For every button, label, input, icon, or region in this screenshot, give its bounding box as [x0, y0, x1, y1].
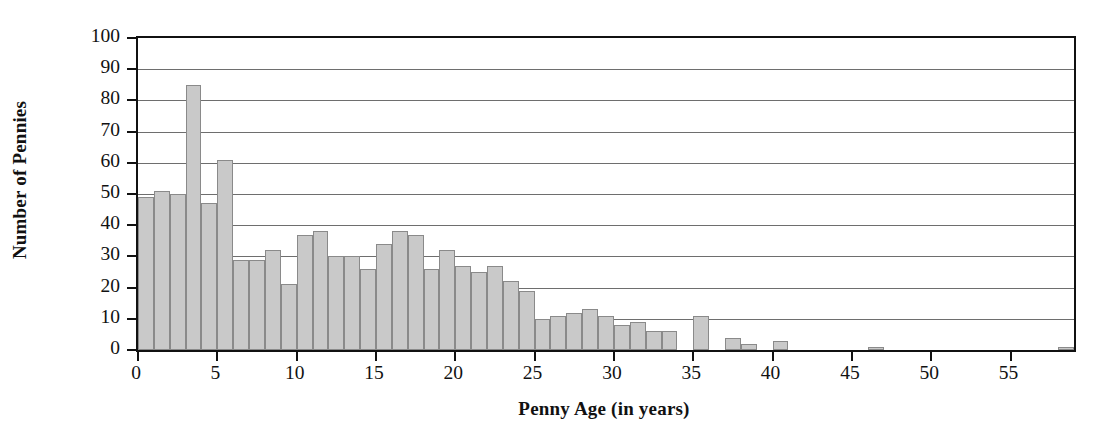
histogram-bar [439, 250, 455, 350]
histogram-bar [535, 319, 551, 350]
x-axis-tick-label: 40 [761, 362, 781, 384]
histogram-bar [313, 231, 329, 350]
histogram-bar [646, 331, 662, 350]
histogram-bar [582, 309, 598, 350]
x-axis-tick [772, 350, 774, 361]
y-axis-tick [127, 162, 138, 164]
histogram-bar [598, 316, 614, 350]
y-axis-tick-label: 80 [10, 87, 130, 109]
histogram-bar [297, 235, 313, 350]
x-axis-tick-labels: 0510152025303540455055 [136, 362, 1072, 392]
y-axis-tick-label: 90 [10, 56, 130, 78]
histogram-bar [138, 197, 154, 350]
y-axis-tick [127, 193, 138, 195]
histogram-bar [233, 260, 249, 350]
histogram-bar [154, 191, 170, 350]
y-axis-tick [127, 99, 138, 101]
x-axis-tick-label: 5 [210, 362, 220, 384]
histogram-bar [1058, 347, 1074, 350]
x-axis-tick [613, 350, 615, 361]
histogram-bar [376, 244, 392, 350]
y-axis-tick [127, 287, 138, 289]
gridline-y-80 [138, 100, 1074, 101]
gridline-y-90 [138, 69, 1074, 70]
y-axis-tick [127, 224, 138, 226]
y-axis-tick-label: 0 [10, 337, 130, 359]
histogram-bar [328, 256, 344, 350]
x-axis-tick [296, 350, 298, 361]
histogram-bar [217, 160, 233, 350]
x-axis-tick-label: 45 [840, 362, 860, 384]
histogram-bar [281, 284, 297, 350]
x-axis-tick [216, 350, 218, 361]
histogram-bar [201, 203, 217, 350]
y-axis-tick-label: 30 [10, 243, 130, 265]
x-axis-tick-label: 0 [131, 362, 141, 384]
histogram-bar [455, 266, 471, 350]
x-axis-tick [1010, 350, 1012, 361]
y-axis-tick-label: 10 [10, 306, 130, 328]
x-axis-tick-label: 55 [999, 362, 1019, 384]
histogram-bar [566, 313, 582, 350]
gridline-y-50 [138, 194, 1074, 195]
y-axis-tick [127, 318, 138, 320]
x-axis-tick [930, 350, 932, 361]
y-axis-tick-label: 100 [10, 25, 130, 47]
histogram-bar [249, 260, 265, 350]
histogram-bar [265, 250, 281, 350]
histogram-bar [519, 291, 535, 350]
histogram-bar [487, 266, 503, 350]
histogram-bar [868, 347, 884, 350]
histogram-bar [662, 331, 678, 350]
x-axis-tick [534, 350, 536, 361]
y-axis-tick-label: 60 [10, 150, 130, 172]
x-axis-tick-label: 25 [523, 362, 543, 384]
y-axis-tick-label: 40 [10, 212, 130, 234]
histogram-bar [186, 85, 202, 350]
x-axis-tick [692, 350, 694, 361]
gridline-y-40 [138, 225, 1074, 226]
histogram-bar [170, 194, 186, 350]
x-axis-tick-label: 50 [919, 362, 939, 384]
x-axis-tick [851, 350, 853, 361]
histogram-bar [408, 235, 424, 350]
x-axis-tick [454, 350, 456, 361]
histogram-bar [360, 269, 376, 350]
histogram-bar [424, 269, 440, 350]
x-axis-tick [375, 350, 377, 361]
x-axis-tick-label: 15 [364, 362, 384, 384]
y-axis-tick-labels: 0102030405060708090100 [0, 0, 130, 448]
histogram-bar [503, 281, 519, 350]
x-axis-tick-label: 35 [682, 362, 702, 384]
plot-area [136, 36, 1076, 352]
histogram-bar [725, 338, 741, 350]
y-axis-tick [127, 131, 138, 133]
y-axis-tick [127, 255, 138, 257]
x-axis-tick-label: 30 [602, 362, 622, 384]
y-axis-tick [127, 37, 138, 39]
histogram-bar [630, 322, 646, 350]
y-axis-tick-label: 20 [10, 275, 130, 297]
x-axis-tick-label: 10 [285, 362, 305, 384]
histogram-bar [550, 316, 566, 350]
y-axis-tick-label: 50 [10, 181, 130, 203]
y-axis-tick [127, 68, 138, 70]
x-axis-tick [137, 350, 139, 361]
x-axis-tick-label: 20 [444, 362, 464, 384]
histogram-bar [614, 325, 630, 350]
x-axis-title: Penny Age (in years) [136, 398, 1072, 420]
histogram-bar [773, 341, 789, 350]
histogram-bar [471, 272, 487, 350]
histogram-bar [693, 316, 709, 350]
histogram-bar [344, 256, 360, 350]
histogram-bar [392, 231, 408, 350]
y-axis-tick-label: 70 [10, 119, 130, 141]
histogram-bar [741, 344, 757, 350]
gridline-y-60 [138, 163, 1074, 164]
histogram-figure: Number of Pennies 0102030405060708090100… [0, 0, 1112, 448]
gridline-y-70 [138, 132, 1074, 133]
